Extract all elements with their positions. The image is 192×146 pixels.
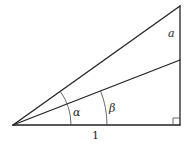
alpha-arc [60, 91, 71, 125]
label-beta: β [108, 102, 115, 115]
outer-hypotenuse [13, 6, 180, 125]
right-angle-marker [173, 118, 180, 125]
triangle-diagram: a α β 1 [0, 0, 192, 146]
label-alpha: α [73, 106, 81, 119]
label-base-length: 1 [92, 129, 99, 142]
inner-line [13, 60, 180, 125]
label-a: a [168, 27, 175, 40]
beta-arc [101, 91, 107, 125]
